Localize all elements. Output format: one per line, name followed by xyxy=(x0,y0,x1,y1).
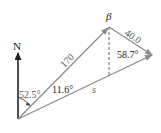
vector-170-label: 170 xyxy=(58,51,76,69)
resultant-label: s xyxy=(92,84,96,95)
angle-beta-label: β xyxy=(105,10,112,22)
angle-between-label: 11.6° xyxy=(52,84,73,95)
vector-170 xyxy=(18,28,108,119)
angle-right-label: 58.7° xyxy=(117,49,139,60)
resultant-vector xyxy=(18,55,152,119)
angle-north-label: 52.5° xyxy=(19,89,41,100)
north-label: N xyxy=(13,40,21,52)
vector-diagram: N 170 40.0 s 52.5° 11.6° 58.7° β xyxy=(0,0,161,133)
